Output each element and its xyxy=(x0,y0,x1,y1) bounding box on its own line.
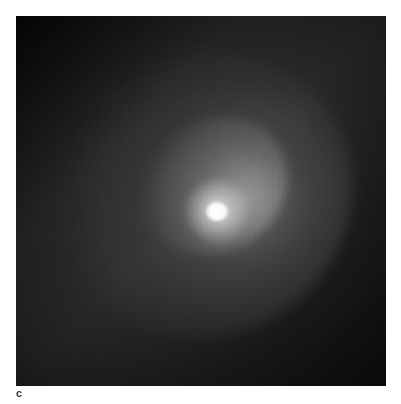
panel-label: c xyxy=(16,387,22,399)
comet-image xyxy=(16,16,386,386)
image-vignette xyxy=(16,16,386,386)
